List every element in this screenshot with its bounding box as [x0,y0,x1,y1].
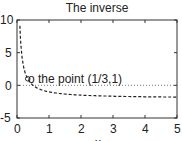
xtick-3: 3 [110,123,117,135]
x-axis-label: x [95,137,101,141]
axes-box [17,20,177,118]
inverse-curve [20,26,177,97]
plot-area [0,0,182,141]
xtick-0: 0 [14,123,21,135]
ytick-0: 0 [5,80,12,92]
ytick-10: 10 [0,14,13,26]
xtick-5: 5 [174,123,181,135]
ytick-5: 5 [5,47,12,59]
xtick-2: 2 [78,123,85,135]
point-annotation: o the point (1/3,1) [28,73,122,85]
ytick-minus5: -5 [0,112,11,124]
xtick-1: 1 [46,123,53,135]
xtick-4: 4 [142,123,149,135]
